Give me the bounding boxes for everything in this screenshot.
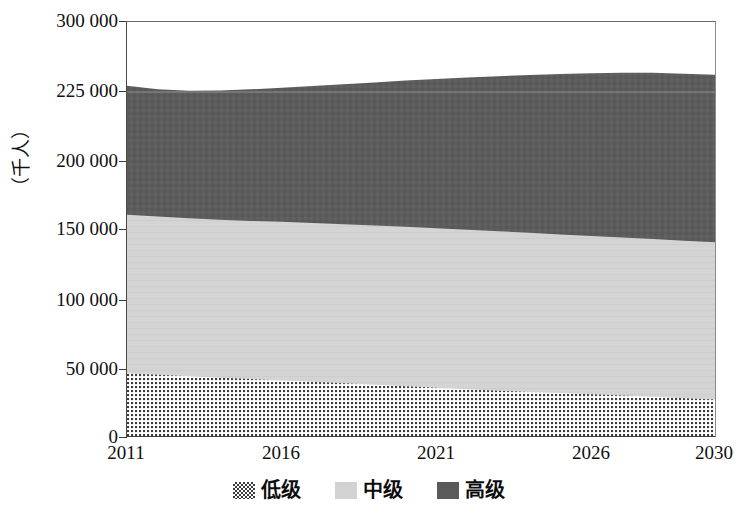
legend-label: 中级 (363, 480, 403, 500)
y-tick-label: 200 000 (14, 151, 118, 170)
legend-item[interactable]: 低级 (233, 480, 301, 500)
y-tick-label: 300 000 (14, 11, 118, 30)
x-tick-label: 2030 (674, 443, 738, 463)
x-tick-label: 2011 (86, 443, 166, 463)
x-tick-label: 2026 (551, 443, 631, 463)
plot-area (126, 21, 716, 437)
x-tick-label: 2021 (396, 443, 476, 463)
stacked-area-svg (127, 22, 715, 436)
legend-label: 高级 (465, 480, 505, 500)
x-tick-label: 2016 (241, 443, 321, 463)
legend-item[interactable]: 高级 (437, 480, 505, 500)
legend-swatch-light-gray (335, 482, 357, 499)
area-chart: （千人） 300 000225 000200 000150 000100 000… (0, 0, 738, 513)
y-tick-label: 225 000 (14, 81, 118, 100)
y-tick-label: 50 000 (14, 359, 118, 378)
y-tick-mark (119, 437, 127, 438)
legend-swatch-dark-gray (437, 482, 459, 499)
legend-item[interactable]: 中级 (335, 480, 403, 500)
y-tick-label: 100 000 (14, 290, 118, 309)
y-tick-label: 150 000 (14, 219, 118, 238)
legend-swatch-dotted (233, 482, 255, 499)
legend-label: 低级 (261, 480, 301, 500)
legend: 低级中级高级 (0, 480, 738, 500)
y-axis-tick-labels: 300 000225 000200 000150 000100 00050 00… (14, 0, 118, 460)
